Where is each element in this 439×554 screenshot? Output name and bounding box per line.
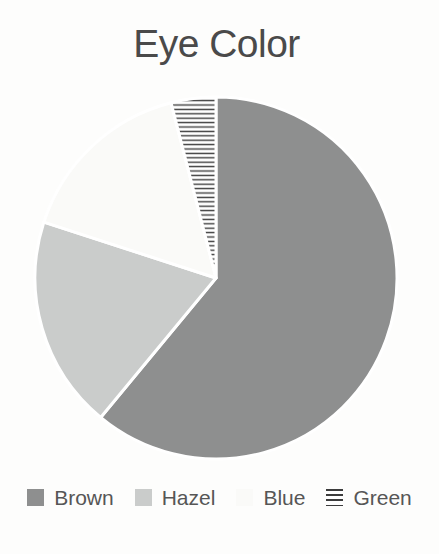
chart-title: Eye Color xyxy=(0,24,433,63)
legend-label-brown: Brown xyxy=(54,487,114,508)
legend: Brown Hazel Blue Green xyxy=(0,487,439,508)
legend-item-blue: Blue xyxy=(236,487,305,508)
pie-chart xyxy=(32,94,400,462)
legend-item-green: Green xyxy=(326,487,411,508)
legend-swatch-green xyxy=(326,489,343,506)
legend-label-green: Green xyxy=(353,487,411,508)
legend-swatch-hazel xyxy=(135,489,152,506)
legend-swatch-blue xyxy=(236,489,253,506)
legend-label-hazel: Hazel xyxy=(162,487,216,508)
chart-page: Eye Color Brown Hazel Blue Green xyxy=(0,0,439,554)
legend-item-brown: Brown xyxy=(27,487,114,508)
legend-label-blue: Blue xyxy=(263,487,305,508)
legend-item-hazel: Hazel xyxy=(135,487,216,508)
pie-svg xyxy=(32,94,400,462)
legend-swatch-brown xyxy=(27,489,44,506)
